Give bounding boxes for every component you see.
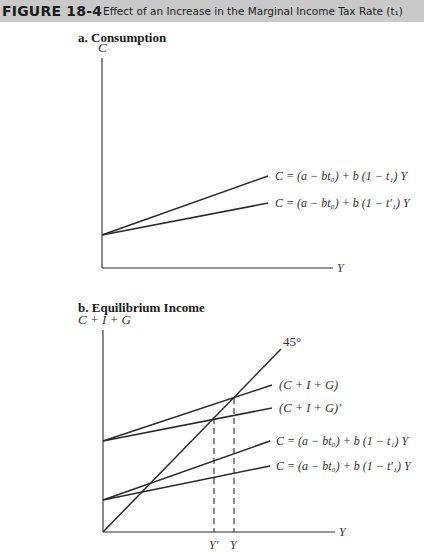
panel-b-45-degree-line xyxy=(103,349,281,532)
panel-b-chart xyxy=(103,330,335,532)
figure-diagram: C Y C = (a − bt₀) + b (1 − t₁) Y C = (a … xyxy=(0,0,424,553)
panel-b-y-axis-label: C + I + G xyxy=(78,312,132,327)
panel-a-x-axis-label: Y xyxy=(337,261,345,275)
panel-a-line-upper-label: C = (a − bt₀) + b (1 − t₁) Y xyxy=(275,169,408,183)
panel-b-y-prime-tick-label: Y′ xyxy=(209,538,219,552)
panel-b-consumption-lower-label: C = (a − bt₀) + b (1 − t′₁) Y xyxy=(276,459,412,473)
panel-b-45-label: 45° xyxy=(283,334,301,349)
panel-a-consumption-line-upper xyxy=(102,176,268,235)
panel-b-aggregate-lower-label: (C + I + G)′ xyxy=(279,401,341,415)
panel-b-consumption-upper-label: C = (a − bt₀) + b (1 − t₁) Y xyxy=(276,434,409,448)
panel-a-line-lower-label: C = (a − bt₀) + b (1 − t′₁) Y xyxy=(275,196,411,210)
panel-b-y-tick-label: Y xyxy=(230,538,238,552)
panel-a-consumption-line-lower xyxy=(102,203,268,235)
panel-a-chart xyxy=(102,58,333,268)
panel-a-y-axis-label: C xyxy=(98,40,107,55)
panel-b-aggregate-upper-label: (C + I + G) xyxy=(279,378,338,392)
panel-b-x-axis-label: Y xyxy=(339,525,347,539)
